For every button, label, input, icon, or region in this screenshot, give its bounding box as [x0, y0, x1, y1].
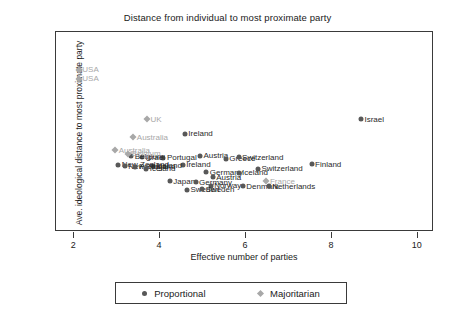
data-point[interactable]: Sweden: [185, 187, 190, 192]
diamond-marker-icon: [263, 178, 270, 185]
data-point[interactable]: Israel: [358, 117, 363, 122]
diamond-marker-icon: [75, 66, 82, 73]
x-tick-label: 10: [412, 240, 422, 250]
data-point-label: Ireland: [186, 161, 210, 169]
data-point[interactable]: Belgium: [126, 151, 131, 156]
data-point[interactable]: New Zealand: [122, 164, 127, 169]
circle-marker-icon: [144, 166, 149, 171]
circle-marker-icon: [200, 187, 205, 192]
data-point[interactable]: Australia: [131, 135, 136, 140]
data-point-label: Finland: [315, 160, 341, 168]
data-point[interactable]: Iceland: [144, 166, 149, 171]
data-point-label: Ireland: [188, 130, 212, 138]
diamond-marker-icon: [130, 134, 137, 141]
diamond-marker-icon: [125, 150, 132, 157]
circle-marker-icon: [182, 131, 187, 136]
circle-marker-icon: [204, 170, 209, 175]
diamond-marker-icon: [144, 116, 151, 123]
data-point[interactable]: USA: [76, 76, 81, 81]
circle-marker-icon: [223, 156, 228, 161]
data-point-label: USA: [82, 66, 98, 74]
x-tick-label: 6: [242, 240, 247, 250]
chart-title: Distance from individual to most proxima…: [0, 12, 455, 23]
x-tick-mark: [159, 232, 160, 238]
chart-legend: Proportional Majoritarian: [115, 282, 347, 304]
circle-marker-icon: [358, 117, 363, 122]
diamond-marker-icon: [257, 289, 264, 296]
data-point[interactable]: Germany: [204, 170, 209, 175]
data-point[interactable]: Ireland: [182, 131, 187, 136]
x-tick-mark: [73, 232, 74, 238]
data-point[interactable]: USA: [76, 67, 81, 72]
data-point-label: UK: [151, 115, 162, 123]
data-point-label: USA: [82, 75, 98, 83]
data-point-label: Switzerland: [242, 153, 283, 161]
data-point[interactable]: Japan: [167, 179, 172, 184]
x-tick-label: 4: [157, 240, 162, 250]
data-point[interactable]: Finland: [309, 162, 314, 167]
circle-marker-icon: [197, 153, 202, 158]
data-points-layer: IsraelIrelandAustriaGreeceSwitzerlandPor…: [56, 32, 432, 230]
circle-marker-icon: [236, 155, 241, 160]
data-point[interactable]: Sweden: [200, 187, 205, 192]
circle-marker-icon: [122, 164, 127, 169]
data-point-label: Iceland: [150, 165, 176, 173]
circle-marker-icon: [240, 184, 245, 189]
legend-item-proportional[interactable]: Proportional: [142, 288, 205, 299]
data-point-label: Israel: [364, 115, 384, 123]
data-point[interactable]: New Zealand: [116, 162, 121, 167]
circle-marker-icon: [167, 179, 172, 184]
circle-marker-icon: [309, 162, 314, 167]
data-point[interactable]: Denmark: [240, 184, 245, 189]
chart-canvas: Distance from individual to most proxima…: [0, 0, 455, 325]
data-point[interactable]: Germany: [193, 180, 198, 185]
x-tick-label: 8: [328, 240, 333, 250]
data-point-label: Belgium: [132, 150, 161, 158]
data-point[interactable]: France: [264, 179, 269, 184]
data-point[interactable]: Portugal: [133, 164, 138, 169]
data-point[interactable]: Austria: [197, 153, 202, 158]
legend-label-proportional: Proportional: [154, 288, 205, 299]
data-point-label: Sweden: [206, 185, 235, 193]
x-tick-label: 2: [71, 240, 76, 250]
x-tick-mark: [417, 232, 418, 238]
diamond-marker-icon: [75, 75, 82, 82]
x-axis-label: Effective number of parties: [55, 252, 433, 262]
circle-marker-icon: [193, 180, 198, 185]
plot-area: Ave. ideological distance to most proxim…: [55, 31, 433, 231]
data-point[interactable]: Greece: [223, 156, 228, 161]
diamond-marker-icon: [112, 147, 119, 154]
x-tick-mark: [245, 232, 246, 238]
circle-marker-icon: [116, 162, 121, 167]
data-point-label: France: [270, 177, 295, 185]
circle-marker-icon: [133, 164, 138, 169]
data-point[interactable]: Australia: [113, 148, 118, 153]
data-point-label: Australia: [137, 133, 168, 141]
data-point[interactable]: Switzerland: [236, 155, 241, 160]
circle-marker-icon: [185, 187, 190, 192]
data-point[interactable]: UK: [145, 117, 150, 122]
x-tick-mark: [331, 232, 332, 238]
legend-item-majoritarian[interactable]: Majoritarian: [258, 288, 320, 299]
circle-marker-icon: [142, 291, 147, 296]
data-point-label: Iceland: [242, 169, 268, 177]
legend-label-majoritarian: Majoritarian: [270, 288, 320, 299]
